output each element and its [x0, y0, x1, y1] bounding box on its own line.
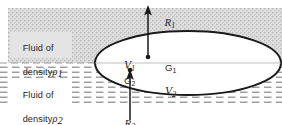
lower-fluid-label: Fluid of densityρ2 — [12, 79, 63, 125]
force-r1-subscript: 1 — [171, 21, 175, 30]
force-r2-label: R2 — [113, 104, 135, 125]
volume-v2-symbol: V — [165, 85, 172, 97]
upper-fluid-line1: Fluid of — [23, 43, 54, 53]
lower-fluid-rho-subscript: 2 — [58, 115, 63, 125]
volume-v2-subscript: 2 — [172, 90, 176, 99]
force-r2-subscript: 2 — [131, 122, 135, 125]
centroid-g1-label: G1 — [154, 50, 176, 86]
centroid-g1-subscript: 1 — [172, 66, 176, 73]
upper-fluid-rho-subscript: 1 — [58, 68, 63, 79]
fluid-interface-figure: Fluid of densityρ1 Fluid of densityρ2 V1… — [0, 0, 282, 125]
upper-fluid-line2: density — [23, 67, 53, 77]
centroid-g2-subscript: 2 — [131, 79, 135, 86]
lower-fluid-line1: Fluid of — [23, 90, 54, 100]
centroid-g1-dot — [146, 55, 151, 60]
centroid-g2-label: G2 — [113, 63, 135, 99]
force-r1-label: R1 — [153, 3, 175, 44]
lower-fluid-line2: density — [23, 114, 53, 124]
